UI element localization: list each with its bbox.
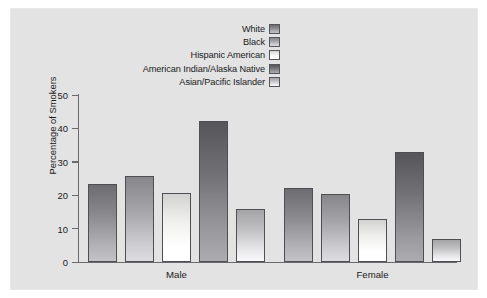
bar <box>199 121 228 262</box>
bar <box>125 176 154 262</box>
bar <box>88 184 117 262</box>
y-axis-tick-label: 0 <box>44 257 68 268</box>
legend-item: Black <box>120 35 280 48</box>
x-axis-line <box>78 262 457 263</box>
bar <box>432 239 461 262</box>
y-axis-tick-label: 40 <box>44 123 68 134</box>
legend-item-label: Black <box>243 37 269 47</box>
bar <box>236 209 265 262</box>
legend-swatch <box>269 37 280 47</box>
plot-area <box>78 95 456 262</box>
legend-item-label: White <box>242 24 269 34</box>
legend-swatch <box>269 64 280 74</box>
y-axis-tick-label: 30 <box>44 156 68 167</box>
legend-item: Hispanic American <box>120 49 280 62</box>
bar <box>395 152 424 262</box>
y-axis-tick-label: 50 <box>44 90 68 101</box>
bar <box>321 194 350 262</box>
x-axis-group-label: Female <box>357 269 389 280</box>
bar <box>284 188 313 262</box>
legend-item-label: American Indian/Alaska Native <box>143 64 269 74</box>
legend-item-label: Hispanic American <box>191 50 269 60</box>
legend-swatch <box>269 77 280 87</box>
chart-figure: WhiteBlackHispanic AmericanAmerican Indi… <box>0 0 487 298</box>
legend-item-label: Asian/Pacific Islander <box>179 77 269 87</box>
bar <box>162 193 191 262</box>
x-axis-group-label: Male <box>166 269 187 280</box>
y-axis-tick-label: 20 <box>44 190 68 201</box>
legend-swatch <box>269 50 280 60</box>
chart-legend: WhiteBlackHispanic AmericanAmerican Indi… <box>120 22 280 89</box>
legend-item: American Indian/Alaska Native <box>120 62 280 75</box>
bar <box>358 219 387 262</box>
legend-item: White <box>120 22 280 35</box>
legend-swatch <box>269 24 280 34</box>
y-axis-tick-label: 10 <box>44 223 68 234</box>
legend-item: Asian/Pacific Islander <box>120 76 280 89</box>
